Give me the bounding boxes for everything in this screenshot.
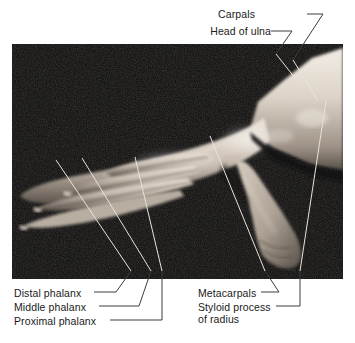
label-distal-phalanx: Distal phalanx (14, 287, 81, 299)
label-carpals: Carpals (185, 8, 255, 20)
label-styloid-process-of-radius: Styloid process of radius (198, 301, 271, 325)
anatomy-figure: Carpals Head of ulna Distal phalanx Midd… (0, 0, 355, 343)
label-metacarpals: Metacarpals (198, 287, 256, 299)
label-styloid-process-line2: of radius (198, 313, 271, 325)
label-head-of-ulna: Head of ulna (186, 25, 271, 37)
hand-photograph-image (12, 44, 343, 279)
label-proximal-phalanx: Proximal phalanx (14, 315, 96, 327)
label-middle-phalanx: Middle phalanx (14, 301, 86, 313)
hand-photograph (12, 44, 343, 279)
label-styloid-process-line1: Styloid process (198, 301, 271, 313)
